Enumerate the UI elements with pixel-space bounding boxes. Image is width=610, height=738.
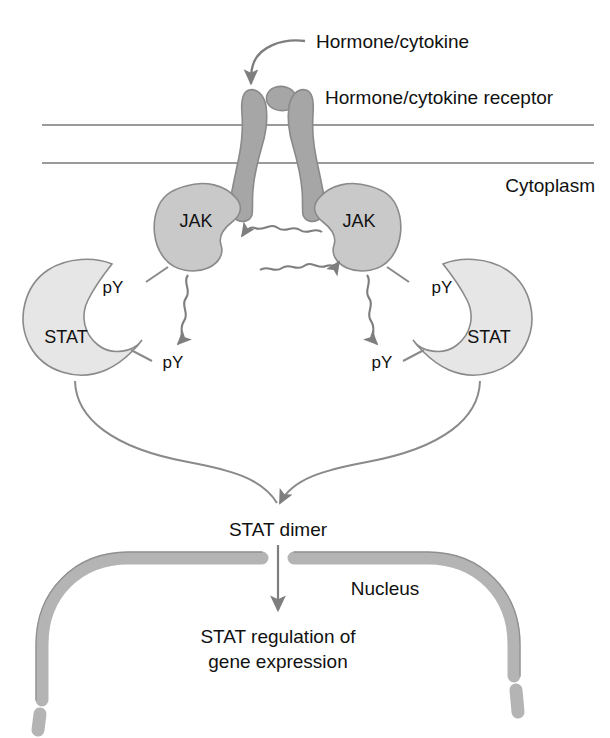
stat-protein-left: STAT: [23, 259, 142, 375]
hormone-cytokine-label: Hormone/cytokine: [316, 31, 469, 52]
receptor-label: Hormone/cytokine receptor: [325, 87, 554, 108]
jak-kinase-right: JAK: [315, 183, 401, 271]
py-connector-jak-right: [387, 267, 409, 282]
nuclear-pore-stub-right: [516, 690, 518, 712]
nuclear-pore-stub-left: [38, 714, 40, 730]
jak-right-label: JAK: [342, 211, 375, 231]
py-connector-jak-left: [146, 267, 168, 282]
jak-kinase-left: JAK: [154, 183, 240, 271]
nucleus-label: Nucleus: [351, 578, 420, 599]
plasma-membrane: [42, 125, 594, 163]
gene-expression-line-2: gene expression: [208, 651, 347, 672]
wavy-arrow-jak-to-stat-right: [367, 275, 377, 344]
py-connector-stat-left: [131, 350, 152, 361]
stat-right-to-dimer-curve: [280, 381, 480, 503]
stat-right-py-label: pY: [372, 353, 393, 372]
wavy-arrow-left-to-right: [260, 262, 339, 270]
transphosphorylation-arrows: [242, 226, 339, 270]
jak-left-label: JAK: [179, 211, 212, 231]
jak-left-py-label: pY: [103, 278, 124, 297]
stat-right-shape: [413, 259, 532, 375]
stat-right-label: STAT: [467, 327, 510, 347]
jak-right-py-label: pY: [432, 278, 453, 297]
stat-left-to-dimer-curve: [75, 381, 277, 503]
cytoplasm-label: Cytoplasm: [505, 175, 595, 196]
wavy-arrow-jak-to-stat-left: [178, 275, 188, 344]
stat-left-shape: [23, 259, 142, 375]
stat-dimer-label: STAT dimer: [229, 519, 328, 540]
py-connector-stat-right: [403, 350, 424, 361]
jak-stat-diagram: JAK JAK STAT STAT pY pY: [0, 0, 610, 738]
wavy-arrow-right-to-left: [242, 226, 322, 236]
dimerization-arrows: [75, 381, 480, 503]
stat-left-label: STAT: [44, 327, 87, 347]
ligand-pointer-arrow: [251, 40, 305, 84]
pathway-illustration: JAK JAK STAT STAT pY pY: [0, 0, 610, 738]
stat-protein-right: STAT: [413, 259, 532, 375]
gene-expression-line-1: STAT regulation of: [200, 626, 356, 647]
stat-left-py-label: pY: [163, 353, 184, 372]
